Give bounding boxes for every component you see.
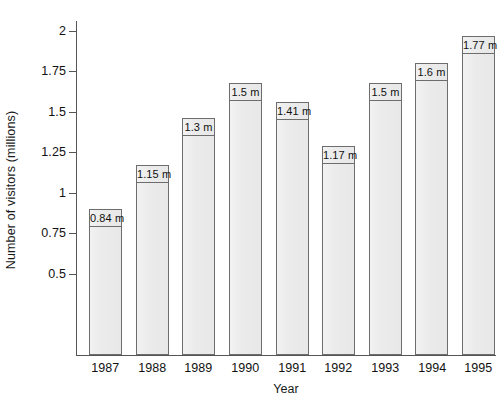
x-axis-tick-label: 1994 <box>409 360 456 376</box>
y-axis-tick-label: 1.5 <box>6 106 66 118</box>
bar-value-label: 1.15 m <box>137 168 168 181</box>
bar: 1.5 m <box>369 83 402 355</box>
y-axis-tick-label: 1.75 <box>6 65 66 77</box>
x-axis-tick-labels: 198719881989199019911992199319941995 <box>76 360 496 378</box>
bar-fill <box>183 119 214 354</box>
bar-value-label: 1.6 m <box>416 66 447 79</box>
y-axis-tick <box>69 112 77 113</box>
bar-chart: Number of visitors (millions) 0.50.7511.… <box>0 0 503 403</box>
x-axis-tick-label: 1991 <box>269 360 316 376</box>
bar-fill <box>90 210 121 354</box>
bar-value-label: 1.77 m <box>463 39 494 52</box>
bar-fill <box>370 84 401 354</box>
bar: 1.41 m <box>276 102 309 355</box>
bar-fill <box>463 37 494 354</box>
y-axis-tick <box>69 274 77 275</box>
x-axis-tick-label: 1989 <box>175 360 222 376</box>
bar-value-label: 1.41 m <box>277 105 308 118</box>
bar-fill <box>416 64 447 354</box>
y-axis-tick <box>69 152 77 153</box>
bar: 1.77 m <box>462 36 495 355</box>
y-axis-tick <box>69 233 77 234</box>
y-axis-tick-label: 1.25 <box>6 146 66 158</box>
bar-fill <box>230 84 261 354</box>
bar-fill <box>323 147 354 354</box>
x-axis-tick-label: 1993 <box>362 360 409 376</box>
bar: 1.17 m <box>322 146 355 355</box>
y-axis-tick <box>69 31 77 32</box>
y-axis-tick-label: 0.5 <box>6 268 66 280</box>
bar: 0.84 m <box>89 209 122 355</box>
bar: 1.5 m <box>229 83 262 355</box>
bar-value-label: 1.5 m <box>230 86 261 99</box>
x-axis-title: Year <box>76 381 496 397</box>
y-axis-tick <box>69 71 77 72</box>
bar-fill <box>137 166 168 354</box>
y-axis-tick-label: 0.75 <box>6 227 66 239</box>
bar: 1.6 m <box>415 63 448 355</box>
plot-area: 0.84 m1.15 m1.3 m1.5 m1.41 m1.17 m1.5 m1… <box>76 18 496 355</box>
x-axis-tick-label: 1990 <box>222 360 269 376</box>
bar-value-label: 1.5 m <box>370 86 401 99</box>
bar-value-label: 0.84 m <box>90 212 121 225</box>
bar: 1.15 m <box>136 165 169 355</box>
y-axis-tick-label: 2 <box>6 25 66 37</box>
x-axis-line <box>76 355 496 356</box>
bar: 1.3 m <box>182 118 215 355</box>
y-axis-tick <box>69 193 77 194</box>
y-axis-tick-label: 1 <box>6 187 66 199</box>
bar-fill <box>277 103 308 354</box>
x-axis-tick-label: 1995 <box>455 360 502 376</box>
x-axis-tick-label: 1987 <box>82 360 129 376</box>
bar-value-label: 1.3 m <box>183 121 214 134</box>
x-axis-tick-label: 1992 <box>315 360 362 376</box>
bar-value-label: 1.17 m <box>323 149 354 162</box>
x-axis-tick-label: 1988 <box>129 360 176 376</box>
y-axis-tick-labels: 0.50.7511.251.51.752 <box>0 18 66 355</box>
